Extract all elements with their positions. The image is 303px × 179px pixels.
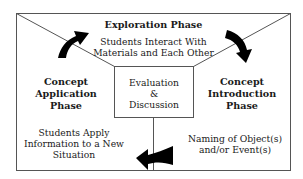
application-phase-title-line2: Application bbox=[26, 88, 106, 100]
center-line2: & bbox=[115, 88, 193, 99]
exploration-description-line1: Students Interact With bbox=[86, 36, 221, 47]
introduction-description-line1: Naming of Object(s) bbox=[180, 133, 290, 144]
application-description-line3: Situation bbox=[18, 149, 130, 160]
exploration-description-line2: Materials and Each Other bbox=[86, 47, 221, 58]
center-line3: Discussion bbox=[115, 99, 193, 110]
exploration-phase-title: Exploration Phase bbox=[96, 19, 211, 31]
introduction-phase-title-line3: Phase bbox=[201, 100, 283, 112]
introduction-phase-title-line2: Introduction bbox=[201, 88, 283, 100]
introduction-phase-title-line1: Concept bbox=[201, 76, 283, 88]
center-line1: Evaluation bbox=[115, 77, 193, 88]
application-phase-title-line1: Concept bbox=[26, 76, 106, 88]
curved-arrow-down-right-icon bbox=[225, 30, 252, 63]
application-description-line1: Students Apply bbox=[18, 127, 130, 138]
application-description-line2: Information to a New bbox=[18, 138, 130, 149]
introduction-description-line2: and/or Event(s) bbox=[180, 144, 290, 155]
curved-arrow-left-icon bbox=[136, 146, 173, 170]
application-phase-title-line3: Phase bbox=[26, 100, 106, 112]
